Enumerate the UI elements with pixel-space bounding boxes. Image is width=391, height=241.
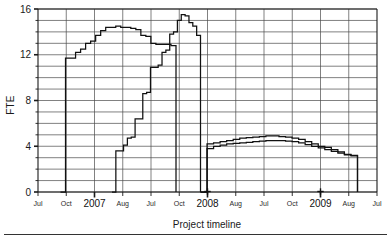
- x-tick-label-month: Aug: [117, 200, 130, 208]
- x-tick-label-month: Aug: [230, 200, 243, 208]
- x-tick-label-month: Oct: [61, 200, 72, 207]
- x-tick-label-month: Oct: [174, 200, 185, 207]
- x-tick-label-month: Jul: [260, 200, 269, 207]
- y-tick-label: 12: [20, 49, 32, 60]
- x-tick-label-month: Jul: [373, 200, 382, 207]
- milestone-marker-plus: [317, 188, 323, 194]
- series-paths: [61, 15, 358, 192]
- x-tick-label-year: 2008: [196, 198, 219, 209]
- series-line-path: [201, 141, 358, 192]
- series-line-path: [61, 26, 177, 192]
- x-tick-label-year: 2009: [309, 198, 332, 209]
- x-axis-label-text: Project timeline: [173, 219, 242, 230]
- y-axis-label-text: FTE: [5, 95, 16, 115]
- x-tick-label-month: Jul: [34, 200, 43, 207]
- y-tick-label: 0: [25, 187, 31, 198]
- y-tick-label: 4: [25, 141, 31, 152]
- x-tick-label-year: 2007: [83, 198, 106, 209]
- y-axis-ticks: 0481216: [20, 4, 38, 198]
- milestone-marker-plus: [204, 188, 210, 194]
- fte-project-timeline-chart: 0481216 JulOct2007AugJulOct2008AugJulOct…: [0, 0, 391, 241]
- chart-figure: 0481216 JulOct2007AugJulOct2008AugJulOct…: [0, 0, 391, 241]
- y-axis-label: FTE: [5, 95, 16, 115]
- footer-divider: [4, 234, 387, 235]
- y-tick-label: 16: [20, 4, 32, 15]
- series-line-path: [201, 136, 358, 192]
- x-tick-label-month: Oct: [287, 200, 298, 207]
- x-tick-label-month: Aug: [343, 200, 356, 208]
- x-axis-label: Project timeline: [173, 219, 242, 230]
- y-tick-label: 8: [25, 95, 31, 106]
- series-line-path: [112, 15, 201, 192]
- x-tick-label-month: Jul: [147, 200, 156, 207]
